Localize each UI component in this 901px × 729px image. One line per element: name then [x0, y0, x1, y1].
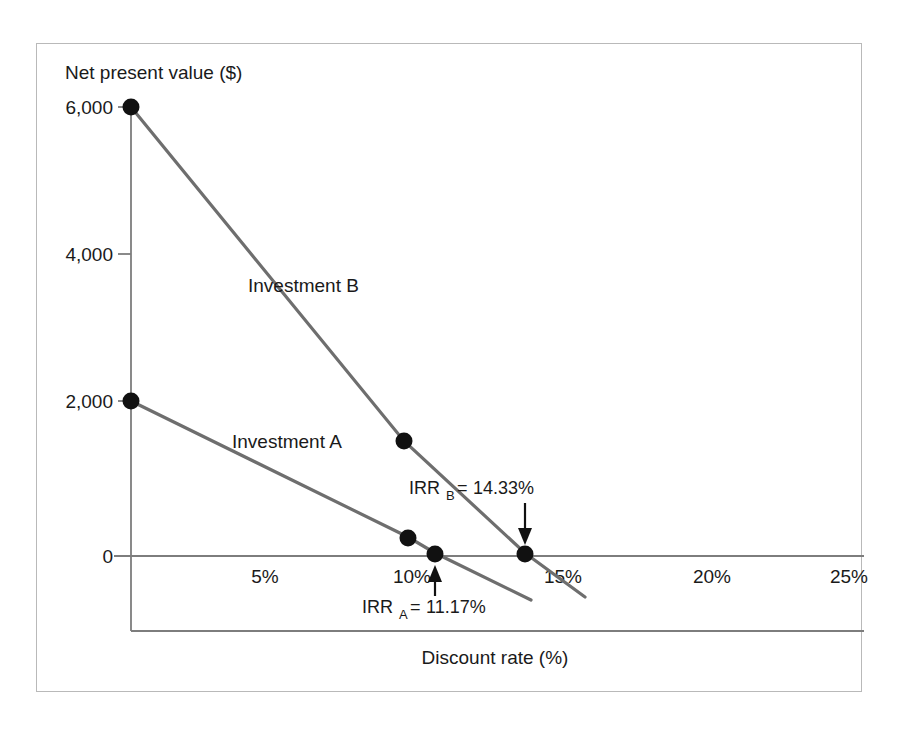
annotation-irr-a-subscript: A [399, 607, 408, 622]
annotation-irr-a-equals: = [410, 597, 421, 617]
annotation-irr-a-value: 11.17% [426, 597, 486, 617]
y-tick-label-4000: 4,000 [65, 244, 113, 265]
x-tick-label-10: 10% [393, 566, 431, 587]
annotation-irr-b-equals: = [457, 478, 468, 498]
x-tick-label-5: 5% [251, 566, 279, 587]
marker-investment-a-0 [123, 393, 140, 410]
x-tick-label-25: 25% [830, 566, 868, 587]
marker-investment-a-irr [427, 546, 444, 563]
annotation-irr-b-arrow-head [518, 528, 532, 545]
annotation-irr-a-prefix: IRR [362, 597, 393, 617]
y-axis-title: Net present value ($) [65, 62, 242, 83]
npv-profile-chart: Net present value ($) 6,000 4,000 2,000 … [0, 0, 901, 729]
annotation-irr-b-subscript: B [446, 488, 455, 503]
marker-investment-b-0 [123, 99, 140, 116]
series-label-investment-b: Investment B [248, 275, 359, 296]
annotation-irr-b: IRR B = 14.33% [409, 478, 534, 545]
annotation-irr-b-value: 14.33% [473, 478, 534, 498]
x-tick-label-20: 20% [693, 566, 731, 587]
x-axis-title: Discount rate (%) [422, 647, 569, 668]
series-label-investment-a: Investment A [232, 431, 342, 452]
annotation-irr-b-prefix: IRR [409, 478, 440, 498]
marker-investment-a-10 [400, 530, 417, 547]
y-tick-label-6000: 6,000 [65, 97, 113, 118]
y-tick-label-2000: 2,000 [65, 391, 113, 412]
chart-page: Net present value ($) 6,000 4,000 2,000 … [0, 0, 901, 729]
marker-investment-b-10 [396, 433, 413, 450]
series-line-investment-b [131, 107, 585, 597]
marker-investment-b-irr [517, 546, 534, 563]
y-tick-label-0: 0 [102, 546, 113, 567]
